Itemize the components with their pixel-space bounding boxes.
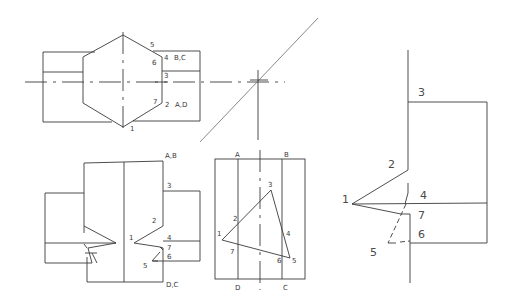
side-label-4: 4 <box>286 230 291 238</box>
side-label-d: D <box>235 284 240 292</box>
front-label-1: 1 <box>129 234 133 242</box>
front-label-dc: D,C <box>166 281 179 289</box>
front-label-7: 7 <box>167 244 171 252</box>
front-label-4: 4 <box>167 234 172 242</box>
side-label-1: 1 <box>217 230 221 238</box>
plan-rect-outline <box>43 52 112 122</box>
front-view: A,B 3 2 1 4 7 6 5 D,C <box>45 152 200 289</box>
side-label-6: 6 <box>277 257 282 265</box>
detail-cut-outline <box>352 170 410 214</box>
front-left-prism <box>45 193 92 263</box>
top-label-3: 3 <box>164 72 168 80</box>
top-label-bc: B,C <box>174 54 186 62</box>
detail-vertical-kink <box>405 193 408 204</box>
front-label-6: 6 <box>167 253 172 261</box>
detail-label-7: 7 <box>418 209 425 222</box>
detail-label-5: 5 <box>370 246 377 259</box>
front-left-cut <box>84 226 116 263</box>
top-label-1: 1 <box>130 125 134 133</box>
front-label-5: 5 <box>143 262 147 270</box>
detail-label-6: 6 <box>418 228 425 241</box>
front-left-notch-edge <box>84 244 87 248</box>
top-label-7: 7 <box>153 98 157 106</box>
detail-horizontal-4 <box>352 203 487 204</box>
drawing-canvas: 5 6 4 B,C 3 7 2 A,D 1 <box>0 0 510 308</box>
side-label-2: 2 <box>233 215 237 223</box>
front-label-3: 3 <box>167 182 171 190</box>
side-label-b: B <box>284 151 289 159</box>
projection-construction <box>200 18 318 142</box>
side-label-5: 5 <box>292 257 296 265</box>
side-label-a: A <box>235 151 240 159</box>
top-label-4: 4 <box>164 54 169 62</box>
top-view: 5 6 4 B,C 3 7 2 A,D 1 <box>25 32 285 133</box>
front-right-cut-lower <box>152 252 160 261</box>
top-label-2: 2 <box>165 101 169 109</box>
detail-hidden-edge <box>388 204 406 243</box>
front-label-2: 2 <box>152 217 156 225</box>
side-view: A B 3 2 1 4 7 6 5 D C <box>215 150 305 292</box>
top-label-ad: A,D <box>175 101 187 109</box>
front-right-cut <box>134 226 163 248</box>
side-label-c: C <box>283 284 288 292</box>
detail-label-1: 1 <box>342 193 349 206</box>
top-label-6: 6 <box>152 59 157 67</box>
true-shape-view: 3 2 1 4 7 6 5 <box>342 50 487 283</box>
front-label-ab: A,B <box>165 152 177 160</box>
detail-label-3: 3 <box>418 86 425 99</box>
front-left-cut-lower <box>92 253 97 263</box>
detail-foot-dash <box>400 241 410 242</box>
front-prism-lower <box>87 248 163 282</box>
side-label-3: 3 <box>268 181 272 189</box>
detail-label-2: 2 <box>388 158 395 171</box>
side-label-7: 7 <box>230 248 234 256</box>
detail-label-4: 4 <box>420 189 427 202</box>
top-label-5: 5 <box>150 41 154 49</box>
